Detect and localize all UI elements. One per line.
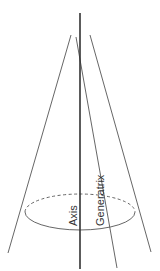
generatrix-line: [76, 37, 117, 268]
axis-label: Axis: [67, 205, 79, 226]
generatrix-label: Generatrix: [94, 174, 106, 226]
cone-diagram: Axis Generatrix: [0, 0, 160, 271]
cone-left-edge: [8, 35, 71, 253]
